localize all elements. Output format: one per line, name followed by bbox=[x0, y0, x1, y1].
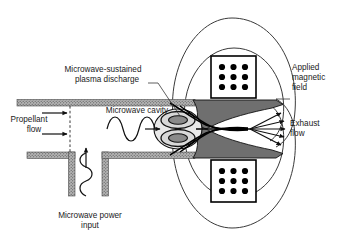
magnet-coil-lower-dots bbox=[219, 168, 248, 194]
exhaust-arrow-5 bbox=[250, 129, 281, 145]
propellant-inlet bbox=[42, 106, 70, 152]
label-exhaust-flow-line1: Exhaust bbox=[290, 119, 320, 128]
label-microwave-power-line1: Microwave power bbox=[58, 211, 122, 220]
diagram-canvas: Microwave-sustained plasma discharge Mic… bbox=[0, 0, 341, 240]
label-plasma-discharge-line1: Microwave-sustained bbox=[65, 65, 142, 74]
wall-lower-left-horizontal bbox=[27, 152, 75, 159]
exhaust-arrow-2 bbox=[250, 121, 284, 129]
microwave-cavity-wave bbox=[107, 117, 160, 141]
label-plasma-discharge-line2: plasma discharge bbox=[75, 75, 140, 84]
magnet-coil-upper-dots bbox=[219, 64, 248, 90]
magnet-coil-upper bbox=[211, 56, 256, 98]
exhaust-arrow-1 bbox=[250, 113, 281, 129]
magnet-coil-lower bbox=[211, 160, 256, 202]
label-propellant-flow-line1: Propellant bbox=[11, 115, 49, 124]
label-applied-magnetic-field-line3: field bbox=[292, 83, 307, 92]
thruster-diagram: Microwave-sustained plasma discharge Mic… bbox=[0, 0, 341, 240]
wall-lower-right-horizontal bbox=[102, 152, 195, 159]
plasma-lobe-upper-inner bbox=[169, 116, 188, 124]
label-microwave-cavity: Microwave cavity bbox=[106, 106, 169, 115]
label-applied-magnetic-field-line1: Applied bbox=[292, 63, 320, 72]
microwave-power-input-helix bbox=[80, 148, 92, 196]
plasma-lobe-lower-inner bbox=[169, 134, 188, 142]
plasma-discharge-region bbox=[154, 109, 202, 149]
wall-lower-left-vertical bbox=[69, 152, 76, 196]
label-propellant-flow-line2: flow bbox=[27, 125, 42, 134]
label-exhaust-flow-line2: flow bbox=[290, 129, 305, 138]
label-microwave-power-line2: input bbox=[81, 221, 99, 230]
label-applied-magnetic-field-line2: magnetic bbox=[292, 73, 325, 82]
